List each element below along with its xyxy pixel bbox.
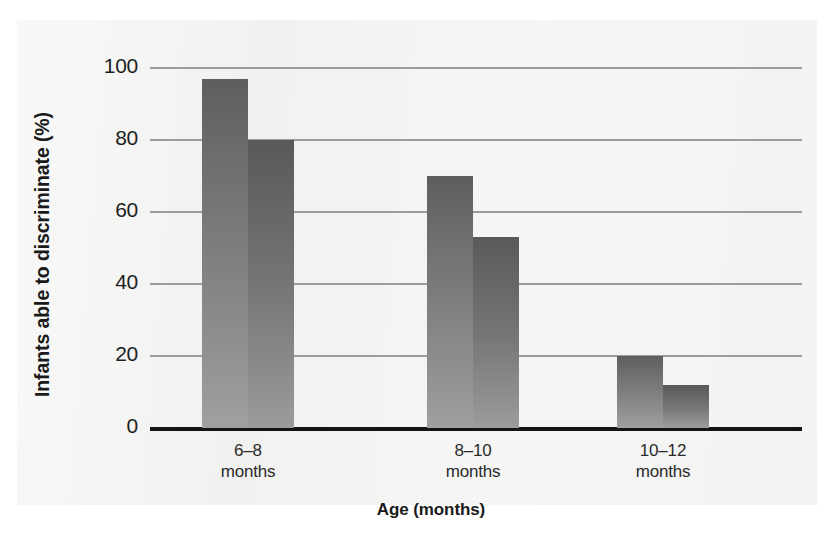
y-tick-label-20: 20 xyxy=(28,342,138,366)
y-tick-label-0: 0 xyxy=(28,414,138,438)
y-tick-label-100: 100 xyxy=(28,54,138,78)
x-axis-title-text: Age (months) xyxy=(377,500,485,520)
y-tick-label-60: 60 xyxy=(28,198,138,222)
x-tick-range-2: 8–10 xyxy=(378,440,568,461)
bar-group-2-series-2 xyxy=(473,237,519,428)
x-tick-label-1: 6–8months xyxy=(153,440,343,482)
x-tick-unit-2: months xyxy=(378,461,568,482)
x-tick-range-1: 6–8 xyxy=(153,440,343,461)
x-tick-unit-3: months xyxy=(568,461,758,482)
bar-group-3-series-1 xyxy=(617,356,663,428)
bar-group-2-series-1 xyxy=(427,176,473,428)
x-tick-label-2: 8–10months xyxy=(378,440,568,482)
x-tick-label-3: 10–12months xyxy=(568,440,758,482)
x-tick-unit-1: months xyxy=(153,461,343,482)
gridline-100 xyxy=(150,67,802,69)
x-axis-title: Age (months) xyxy=(0,500,836,520)
plot-area: 020406080100 6–8months8–10months10–12mon… xyxy=(0,0,836,545)
figure-bar-chart: Infants able to discriminate (%) 0204060… xyxy=(0,0,836,545)
y-tick-label-40: 40 xyxy=(28,270,138,294)
x-tick-range-3: 10–12 xyxy=(568,440,758,461)
bar-group-1-series-1 xyxy=(202,79,248,428)
y-tick-label-80: 80 xyxy=(28,126,138,150)
bar-group-3-series-2 xyxy=(663,385,709,428)
bar-group-1-series-2 xyxy=(248,140,294,428)
